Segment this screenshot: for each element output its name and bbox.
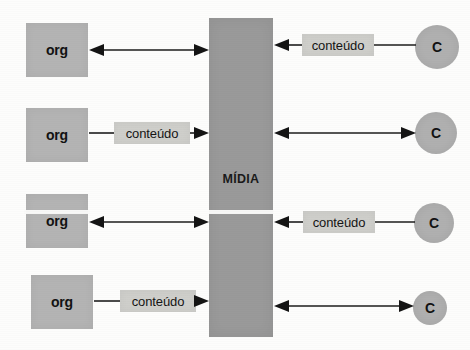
connector-media-pill1	[274, 39, 302, 51]
connector-pill4-media	[194, 295, 209, 307]
connector-layer	[0, 0, 470, 350]
diagram-canvas: MÍDIA org org org org C C C C conteúdo c…	[0, 0, 470, 350]
connector-media-consumer2	[274, 127, 416, 139]
connector-org1-media	[89, 44, 209, 56]
connector-media-consumer4	[274, 300, 414, 312]
scan-artifact-line	[24, 210, 90, 214]
connector-media-pill3	[274, 216, 303, 228]
connector-pill2-media	[190, 127, 209, 139]
connector-org3-media	[89, 216, 209, 228]
scan-artifact-line	[209, 210, 274, 214]
